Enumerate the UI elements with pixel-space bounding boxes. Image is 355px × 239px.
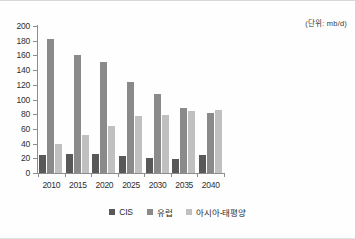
y-tick-label: 200 <box>4 21 30 31</box>
y-tick-label: 40 <box>4 139 30 149</box>
y-tick-label: 0 <box>4 168 30 178</box>
bar-유럽-2025 <box>127 82 134 173</box>
bar-아시아-태평양-2025 <box>135 116 142 173</box>
bar-group <box>39 26 63 173</box>
x-tick-mark <box>65 173 66 177</box>
bar-유럽-2030 <box>154 94 161 173</box>
bar-유럽-2040 <box>207 113 214 173</box>
x-tick-label-2010: 2010 <box>36 180 66 190</box>
y-tick-label: 80 <box>4 109 30 119</box>
bar-CIS-2020 <box>92 154 99 173</box>
legend-item-아시아-태평양[interactable]: 아시아-태평양 <box>186 206 245 218</box>
bar-CIS-2010 <box>39 155 46 173</box>
y-tick-label: 120 <box>4 80 30 90</box>
x-tick-label-2020: 2020 <box>89 180 119 190</box>
bar-group <box>66 26 90 173</box>
bar-아시아-태평양-2040 <box>215 110 222 173</box>
legend-label: 유럽 <box>157 206 173 218</box>
plot-area <box>38 26 224 173</box>
x-tick-label-2025: 2025 <box>116 180 146 190</box>
bar-아시아-태평양-2010 <box>55 144 62 173</box>
x-tick-mark <box>224 173 225 177</box>
bar-CIS-2025 <box>119 156 126 173</box>
y-tick-label: 100 <box>4 95 30 105</box>
y-tick-label: 20 <box>4 153 30 163</box>
bar-아시아-태평양-2015 <box>82 135 89 173</box>
bar-group <box>92 26 116 173</box>
bar-아시아-태평양-2030 <box>162 115 169 173</box>
chart-figure: (단위: mb/d) 200180160140120100806040200 2… <box>0 0 355 239</box>
bar-유럽-2020 <box>100 62 107 173</box>
bar-유럽-2035 <box>180 108 187 173</box>
legend-label: CIS <box>119 207 133 217</box>
y-tick-label: 160 <box>4 50 30 60</box>
legend-swatch-icon <box>109 209 115 215</box>
bar-아시아-태평양-2020 <box>108 126 115 173</box>
x-tick-mark <box>144 173 145 177</box>
bar-CIS-2035 <box>172 159 179 173</box>
x-tick-mark <box>118 173 119 177</box>
y-tick-label: 180 <box>4 36 30 46</box>
y-tick-label: 60 <box>4 124 30 134</box>
legend-swatch-icon <box>147 209 153 215</box>
x-tick-mark <box>38 173 39 177</box>
x-tick-label-2015: 2015 <box>63 180 93 190</box>
legend-swatch-icon <box>186 209 192 215</box>
bar-CIS-2015 <box>66 154 73 173</box>
bar-유럽-2010 <box>47 39 54 174</box>
legend-item-유럽[interactable]: 유럽 <box>147 206 173 218</box>
bar-group <box>119 26 143 173</box>
bar-group <box>199 26 223 173</box>
plot-wrapper: 200180160140120100806040200 201020152020… <box>0 1 355 239</box>
x-tick-mark <box>197 173 198 177</box>
chart-legend: CIS유럽아시아-태평양 <box>0 206 355 218</box>
bar-아시아-태평양-2035 <box>188 111 195 173</box>
bar-CIS-2040 <box>199 155 206 173</box>
x-tick-label-2040: 2040 <box>196 180 226 190</box>
x-tick-mark <box>91 173 92 177</box>
bar-group <box>172 26 196 173</box>
bar-CIS-2030 <box>146 158 153 173</box>
x-tick-label-2030: 2030 <box>143 180 173 190</box>
bar-유럽-2015 <box>74 55 81 173</box>
y-tick-label: 140 <box>4 65 30 75</box>
x-tick-mark <box>171 173 172 177</box>
legend-item-CIS[interactable]: CIS <box>109 207 133 217</box>
legend-label: 아시아-태평양 <box>196 206 245 218</box>
x-tick-label-2035: 2035 <box>169 180 199 190</box>
bar-group <box>146 26 170 173</box>
